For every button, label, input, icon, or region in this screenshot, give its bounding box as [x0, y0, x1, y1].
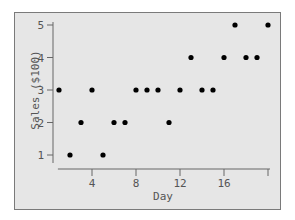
data-point — [177, 87, 182, 92]
data-point — [221, 55, 226, 60]
data-point — [155, 87, 160, 92]
y-tick-label: 1 — [37, 149, 44, 162]
data-point — [254, 55, 259, 60]
x-tick-label: 4 — [89, 177, 96, 190]
data-point — [122, 120, 127, 125]
data-point — [243, 55, 248, 60]
data-points — [56, 22, 270, 157]
y-tick-label: 5 — [37, 19, 44, 32]
data-point — [265, 22, 270, 27]
x-tick-label: 12 — [173, 177, 186, 190]
x-axis-label: Day — [153, 190, 173, 203]
scatter-chart: 12345 481216 Day Sales ($100) — [0, 0, 295, 220]
data-point — [89, 87, 94, 92]
data-point — [188, 55, 193, 60]
data-point — [166, 120, 171, 125]
y-axis-label: Sales ($100) — [29, 50, 42, 129]
data-point — [144, 87, 149, 92]
data-point — [199, 87, 204, 92]
data-point — [111, 120, 116, 125]
data-point — [232, 22, 237, 27]
data-point — [210, 87, 215, 92]
data-point — [56, 87, 61, 92]
x-tick-label: 16 — [217, 177, 230, 190]
data-point — [78, 120, 83, 125]
data-point — [67, 152, 72, 157]
data-point — [100, 152, 105, 157]
data-point — [133, 87, 138, 92]
x-tick-label: 8 — [133, 177, 140, 190]
x-axis: 481216 — [58, 169, 270, 190]
